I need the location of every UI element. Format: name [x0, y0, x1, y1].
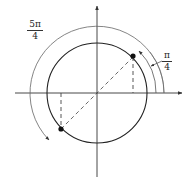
- label-five-pi-over-4-numerator: 5π: [27, 20, 43, 29]
- point-5pi-over-4: [58, 126, 63, 131]
- point-pi-over-4: [130, 53, 135, 58]
- label-five-pi-over-4: 5π 4: [27, 20, 43, 41]
- label-five-pi-over-4-denominator: 4: [27, 32, 43, 41]
- label-pi-over-4-denominator: 4: [162, 63, 172, 72]
- label-pi-over-4-numerator: π: [162, 51, 172, 60]
- label-pi-over-4: π 4: [162, 51, 172, 72]
